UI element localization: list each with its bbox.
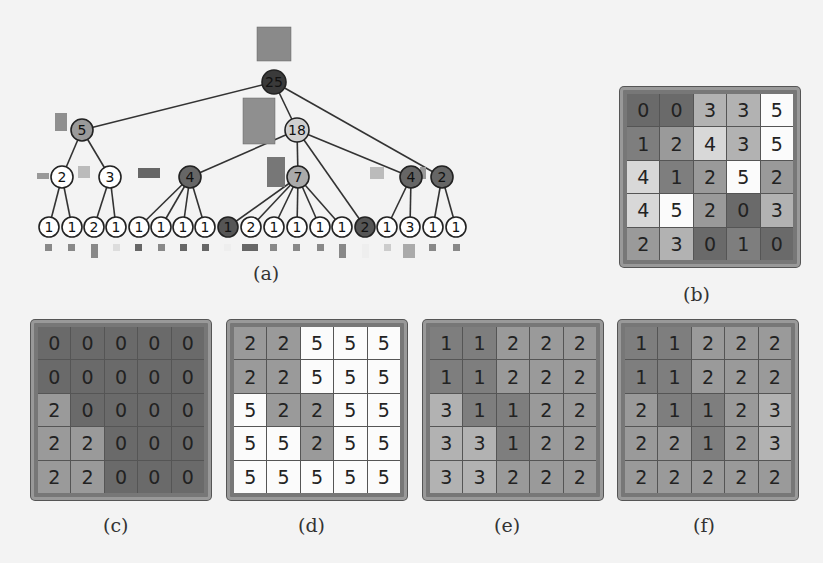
grid-cell: 2 [530, 427, 562, 459]
grid-cell: 2 [234, 360, 266, 392]
grid-cell: 2 [658, 427, 690, 459]
grid-cell: 3 [463, 461, 495, 493]
grid-cell: 2 [625, 461, 657, 493]
grid-cell: 1 [658, 360, 690, 392]
node-value: 18 [288, 122, 306, 138]
grid-cell: 2 [497, 327, 529, 359]
grid-cell: 2 [564, 461, 596, 493]
grid-cell: 2 [658, 461, 690, 493]
node-value: 5 [78, 122, 87, 138]
node-value: 1 [338, 219, 347, 235]
node-value: 3 [406, 219, 415, 235]
grid-cell: 5 [301, 327, 333, 359]
grid-cell: 1 [497, 427, 529, 459]
grid-cell: 5 [368, 327, 400, 359]
grid-d: 2255522555522555525555555 [227, 320, 407, 500]
grid-cell: 1 [727, 228, 759, 260]
grid-cell: 2 [759, 327, 791, 359]
label-a: (a) [253, 262, 279, 284]
grid-cell: 1 [625, 360, 657, 392]
grid-cell: 0 [38, 327, 70, 359]
grid-cell: 5 [334, 360, 366, 392]
grid-cell: 1 [625, 327, 657, 359]
grid-cell: 2 [234, 327, 266, 359]
node-value: 1 [179, 219, 188, 235]
grid-cell: 5 [234, 461, 266, 493]
grid-cell: 3 [430, 461, 462, 493]
mini-grid-thumbnails [37, 27, 426, 187]
label-b: (b) [683, 283, 710, 305]
grid-cell: 1 [430, 360, 462, 392]
grid-cell: 0 [38, 360, 70, 392]
grid-cell: 5 [334, 427, 366, 459]
grid-cell: 0 [627, 94, 659, 126]
grid-cell: 5 [368, 394, 400, 426]
grid-cell: 2 [692, 461, 724, 493]
grid-cell: 2 [267, 327, 299, 359]
grid-cell: 3 [759, 427, 791, 459]
grid-cell: 2 [497, 461, 529, 493]
grid-cell: 0 [172, 461, 204, 493]
component-tree: 25 5 18 2 2 3 4 7 4 1 1 2 1 1 1 1 1 1 2 … [35, 10, 600, 300]
grid-e: 1122211222311223312233222 [423, 320, 603, 500]
grid-cell: 1 [692, 394, 724, 426]
grid-cell: 4 [627, 161, 659, 193]
node-value: 3 [106, 169, 115, 185]
grid-cell: 3 [430, 427, 462, 459]
leaf-thumbnails [45, 244, 460, 258]
grid-cell: 0 [660, 94, 692, 126]
grid-cell: 2 [267, 394, 299, 426]
grid-cell: 0 [172, 327, 204, 359]
grid-cell: 2 [564, 327, 596, 359]
grid-cell: 1 [430, 327, 462, 359]
grid-cell: 5 [234, 427, 266, 459]
node-value: 1 [157, 219, 166, 235]
grid-cell: 1 [627, 127, 659, 159]
node-value: 1 [112, 219, 121, 235]
grid-cell: 5 [334, 394, 366, 426]
grid-cell: 5 [301, 461, 333, 493]
grid-cell: 0 [761, 228, 793, 260]
grid-cell: 0 [172, 427, 204, 459]
grid-cell: 1 [463, 394, 495, 426]
grid-cell: 0 [105, 360, 137, 392]
grid-cell: 2 [530, 461, 562, 493]
grid-cell: 2 [761, 161, 793, 193]
grid-cell: 0 [138, 461, 170, 493]
grid-cell: 2 [694, 194, 726, 226]
grid-cell: 2 [660, 127, 692, 159]
grid-cell: 2 [530, 360, 562, 392]
node-value: 1 [270, 219, 279, 235]
grid-cell: 2 [725, 360, 757, 392]
grid-cell: 2 [725, 427, 757, 459]
grid-c: 0000000000200002200022000 [31, 320, 211, 500]
grid-cell: 1 [692, 427, 724, 459]
node-value: 4 [407, 169, 416, 185]
grid-cell: 2 [38, 427, 70, 459]
grid-cell: 2 [564, 360, 596, 392]
label-e: (e) [494, 514, 520, 536]
grid-cell: 2 [38, 461, 70, 493]
grid-cell: 3 [694, 94, 726, 126]
label-d: (d) [298, 514, 325, 536]
grid-cell: 4 [627, 194, 659, 226]
node-value: 1 [135, 219, 144, 235]
grid-cell: 2 [301, 394, 333, 426]
grid-cell: 1 [658, 394, 690, 426]
node-value: 1 [201, 219, 210, 235]
grid-cell: 1 [497, 394, 529, 426]
node-value: 25 [265, 74, 283, 90]
grid-cell: 2 [694, 161, 726, 193]
grid-cell: 4 [694, 127, 726, 159]
grid-cell: 5 [368, 461, 400, 493]
grid-cell: 2 [564, 427, 596, 459]
node-value: 7 [294, 169, 303, 185]
grid-f: 1122211222211232212322222 [618, 320, 798, 500]
grid-cell: 2 [564, 394, 596, 426]
grid-cell: 0 [727, 194, 759, 226]
grid-cell: 0 [172, 394, 204, 426]
grid-cell: 2 [692, 360, 724, 392]
grid-cell: 0 [138, 360, 170, 392]
grid-cell: 5 [368, 427, 400, 459]
grid-cell: 2 [497, 360, 529, 392]
